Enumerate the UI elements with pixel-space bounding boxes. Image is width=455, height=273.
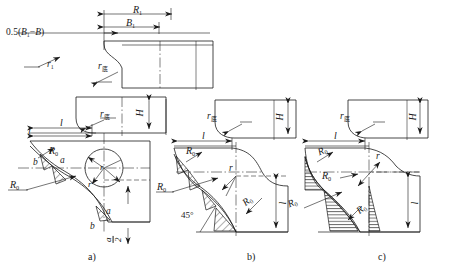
- label-offset-expression: 0.5(B1−B): [6, 28, 44, 39]
- label-circle-r: r: [100, 163, 104, 172]
- label-fraction-a-over-2: a2: [104, 236, 123, 243]
- label-circle-r2: r: [88, 180, 92, 189]
- label-R0-a-upper: R0: [49, 146, 58, 157]
- label-a-a-lower: a: [106, 207, 111, 217]
- middle-view-group: [30, 97, 166, 136]
- label-l-b-top: l: [202, 131, 205, 141]
- wedge-b-2: [188, 170, 200, 190]
- label-H-c: H: [408, 113, 418, 120]
- label-B1: B1: [126, 18, 135, 29]
- label-l-middle: l: [60, 118, 63, 128]
- label-R0-a-lower: R0: [10, 180, 19, 191]
- top-view-group: [18, 8, 213, 90]
- caption-panel-c: c): [378, 252, 386, 262]
- label-l-c-top: l: [334, 131, 337, 141]
- label-r-bottom-top: r底: [98, 62, 108, 73]
- label-R1: R1: [133, 5, 142, 16]
- label-angle-45: 45°: [181, 211, 194, 220]
- caption-panel-a: a): [88, 252, 96, 262]
- leader-r-bottom-top: [98, 72, 118, 82]
- label-a-a-upper: a: [60, 156, 65, 166]
- wedge-b-1: [176, 156, 188, 174]
- label-l-c-right: l: [410, 202, 420, 205]
- label-H-middle: H: [135, 109, 145, 116]
- label-H-b: H: [275, 113, 285, 120]
- wedge-a-upper2: [52, 166, 66, 184]
- wedge-b-4: [214, 208, 236, 231]
- panel-a-group: [8, 133, 150, 244]
- drawing-vector-layer: [0, 0, 455, 273]
- hatch-c-2: [324, 190, 358, 231]
- leader-R0-a-lower: [26, 176, 76, 190]
- caption-panel-b: b): [247, 252, 255, 262]
- leader-r-c: [358, 174, 369, 186]
- leader-R0-c-2: [340, 174, 358, 178]
- label-r-bottom-b: r底: [207, 112, 217, 123]
- label-r-c: r: [376, 152, 380, 162]
- leader-r-bottom-mid: [86, 120, 104, 128]
- figure-canvas: 0.5(B1−B) R1 B1 r1 r底 r底 H l l R0 R0 b a…: [0, 0, 455, 273]
- label-b-a-upper: b: [33, 158, 38, 168]
- label-l-panel-a: l: [28, 126, 31, 136]
- hatch-c-3: [369, 186, 380, 231]
- top-body-outline: [104, 41, 213, 88]
- label-r-bottom-middle: r底: [100, 110, 110, 121]
- angle-45-leg: [200, 206, 216, 232]
- label-R0-c-2: R0: [322, 171, 331, 182]
- label-r-bottom-c: r底: [340, 112, 350, 123]
- label-r1: r1: [47, 60, 54, 71]
- label-r-b: r: [229, 164, 233, 174]
- middle-body-outline: [76, 97, 166, 133]
- label-R0-b-upper: R0: [186, 146, 195, 157]
- label-R0-b-mid: R0: [157, 182, 166, 193]
- label-b-a-lower: b: [90, 222, 95, 232]
- leader-r-b: [222, 176, 236, 190]
